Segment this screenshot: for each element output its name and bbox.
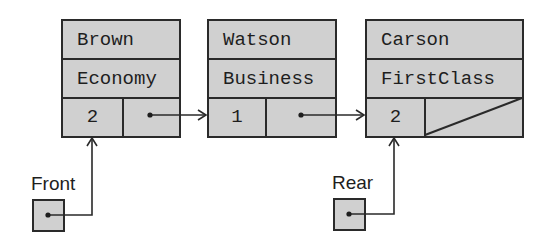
node-count: 2 [63,99,124,136]
arrow-head-icon [389,138,399,146]
node-name-cell: Carson [367,21,522,60]
node-class: Economy [77,68,157,90]
node-class-cell: FirstClass [367,60,522,99]
arrow-head-icon [198,110,206,120]
node-class: FirstClass [381,68,495,90]
arrow-head-icon [356,110,364,120]
node-name: Watson [223,29,291,51]
node-watson: Watson Business 1 [207,19,337,138]
next-pointer-cell [267,99,335,136]
node-name: Brown [77,29,134,51]
node-class-cell: Economy [63,60,179,99]
node-count: 1 [209,99,267,136]
node-name-cell: Watson [209,21,335,60]
node-carson: Carson FirstClass 2 [365,19,524,138]
front-pointer-box [32,199,65,232]
node-class-cell: Business [209,60,335,99]
rear-label: Rear [332,172,373,194]
node-link-row: 2 [367,99,522,136]
arrow-head-icon [87,138,97,146]
node-brown: Brown Economy 2 [61,19,181,138]
front-label: Front [31,173,75,195]
null-pointer-cell [426,99,522,136]
node-link-row: 2 [63,99,179,136]
rear-pointer-box [333,198,366,231]
node-link-row: 1 [209,99,335,136]
node-name-cell: Brown [63,21,179,60]
next-pointer-cell [124,99,179,136]
node-count: 2 [367,99,426,136]
node-class: Business [223,68,314,90]
node-name: Carson [381,29,449,51]
